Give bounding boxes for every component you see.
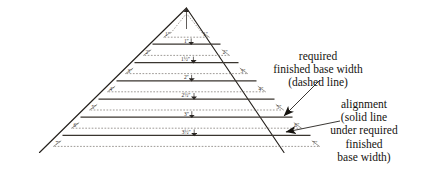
annotation-required-line-3: (dashed line)	[252, 76, 384, 89]
annotation-alignment-line-2: (solid line	[306, 111, 422, 124]
corner-label-right-2: 2″	[223, 49, 228, 55]
corner-label-right-6: 6″	[295, 122, 300, 128]
course-row-6: 6″ 6″ 3½″	[63, 122, 311, 135]
annotation-alignment: alignment (solid line under required fin…	[306, 98, 422, 164]
center-dimension-label-4: 2½″	[182, 92, 191, 98]
center-dimension-label-3: 2″	[184, 74, 189, 80]
center-dimension-label-1: 1″	[184, 38, 189, 44]
center-dimension-label-6: 3½″	[182, 129, 191, 135]
corner-label-left-7: 7″	[56, 140, 61, 146]
corner-label-right-3: 3″	[241, 68, 246, 74]
annotation-required-finished-base-width: required finished base width (dashed lin…	[252, 50, 384, 90]
corner-label-left-3: 3″	[128, 68, 133, 74]
corner-label-left-1: 1″	[165, 31, 170, 37]
corner-label-left-6: 6″	[74, 122, 79, 128]
center-dimension-label-2: 1½″	[181, 56, 190, 62]
corner-label-right-5: 5″	[277, 104, 282, 110]
corner-label-left-5: 5″	[92, 104, 97, 110]
annotation-alignment-line-4: finished	[306, 138, 422, 151]
course-row-3: 3″ 3″ 2″	[117, 68, 257, 81]
corner-label-right-1: 1″	[203, 31, 208, 37]
center-dimension-label-5: 3″	[184, 111, 189, 117]
annotation-required-line-1: required	[252, 50, 384, 63]
annotation-alignment-line-5: base width)	[306, 151, 422, 164]
apex-detail	[171, 11, 203, 34]
course-row-4: 4″ 4″ 2½″	[99, 86, 275, 99]
corner-label-left-4: 4″	[110, 86, 115, 92]
figure-root: 1″ 1″ 1″ 2″ 2″ 1½″ 3″ 3″ 2″	[0, 0, 425, 185]
annotation-alignment-line-1: alignment	[306, 98, 422, 111]
course-row-2: 2″ 2″ 1½″	[135, 49, 239, 62]
corner-label-left-2: 2″	[145, 49, 150, 55]
annotation-required-line-2: finished base width	[252, 63, 384, 76]
course-row-5: 5″ 5″ 3″	[81, 104, 293, 117]
annotation-alignment-line-3: under required	[306, 124, 422, 137]
